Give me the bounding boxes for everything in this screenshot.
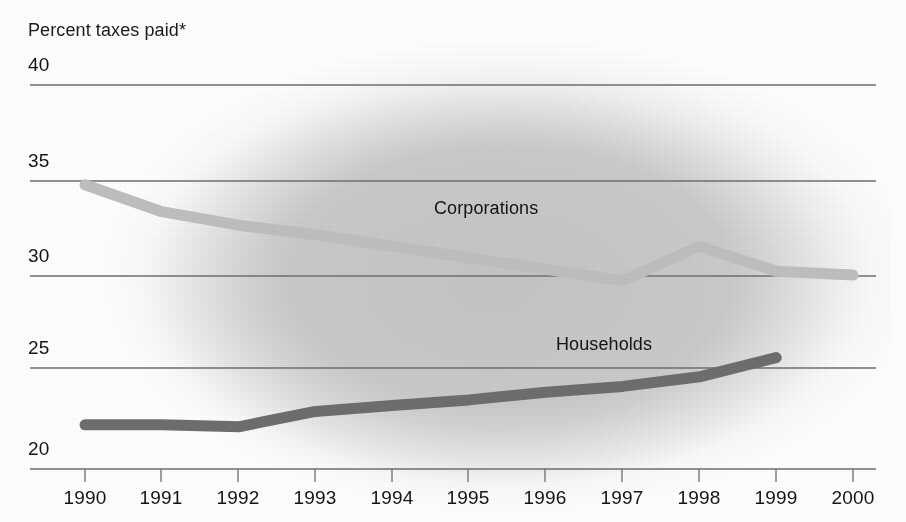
x-axis-label-1994: 1994 bbox=[352, 487, 432, 509]
chart-figure: Percent taxes paid* 40 35 30 25 20 bbox=[0, 0, 906, 522]
x-axis-label-2000: 2000 bbox=[813, 487, 893, 509]
x-axis-label-1991: 1991 bbox=[121, 487, 201, 509]
x-axis bbox=[30, 469, 876, 482]
x-axis-label-1993: 1993 bbox=[275, 487, 355, 509]
gridlines bbox=[30, 85, 876, 368]
x-axis-label-1995: 1995 bbox=[428, 487, 508, 509]
x-axis-label-1990: 1990 bbox=[45, 487, 125, 509]
series-label-households: Households bbox=[556, 334, 652, 355]
x-axis-label-1996: 1996 bbox=[505, 487, 585, 509]
x-axis-label-1997: 1997 bbox=[582, 487, 662, 509]
x-axis-label-1992: 1992 bbox=[198, 487, 278, 509]
x-axis-label-1998: 1998 bbox=[659, 487, 739, 509]
plot-area bbox=[0, 0, 906, 522]
series-label-corporations: Corporations bbox=[434, 198, 538, 219]
x-axis-label-1999: 1999 bbox=[736, 487, 816, 509]
